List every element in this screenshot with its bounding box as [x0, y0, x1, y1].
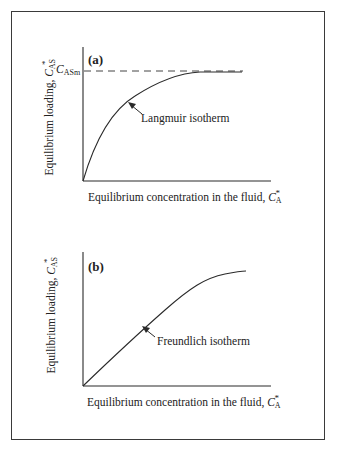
asymptote-subscript: ASm: [64, 68, 80, 77]
asymptote-symbol: C: [56, 63, 64, 75]
y-label-symbol: C: [45, 267, 57, 275]
panel-a-asymptote-label: CASm: [56, 63, 80, 77]
panel-b-tag: (b): [88, 259, 104, 275]
x-label-symbol: C: [268, 191, 276, 203]
freundlich-annotation: Freundlich isotherm: [157, 335, 250, 347]
freundlich-arrow-icon: [142, 326, 155, 337]
panel-b-y-label: Equilibrium loading, CAS*: [42, 258, 59, 373]
langmuir-arrow-icon: [128, 102, 142, 114]
panel-a-x-label: Equilibrium concentration in the fluid, …: [88, 188, 280, 205]
x-label-superscript: *: [276, 188, 281, 198]
langmuir-curve: [83, 72, 242, 181]
y-label-superscript: *: [42, 258, 52, 263]
y-label-symbol: C: [43, 69, 55, 77]
langmuir-annotation: Langmuir isotherm: [141, 112, 229, 124]
x-label-text: Equilibrium concentration in the fluid,: [87, 396, 267, 408]
x-label-superscript: *: [275, 393, 280, 403]
y-label-superscript: *: [40, 60, 50, 65]
panel-b-axes: [83, 252, 271, 386]
freundlich-curve: [83, 271, 246, 386]
panel-a-y-label: Equilibrium loading, CAS*: [40, 60, 57, 175]
panel-b-x-label: Equilibrium concentration in the fluid, …: [87, 393, 279, 410]
y-label-text: Equilibrium loading,: [43, 77, 55, 176]
panel-a-tag: (a): [88, 52, 103, 68]
y-label-text: Equilibrium loading,: [45, 275, 57, 374]
x-label-symbol: C: [267, 396, 275, 408]
x-label-text: Equilibrium concentration in the fluid,: [88, 191, 268, 203]
